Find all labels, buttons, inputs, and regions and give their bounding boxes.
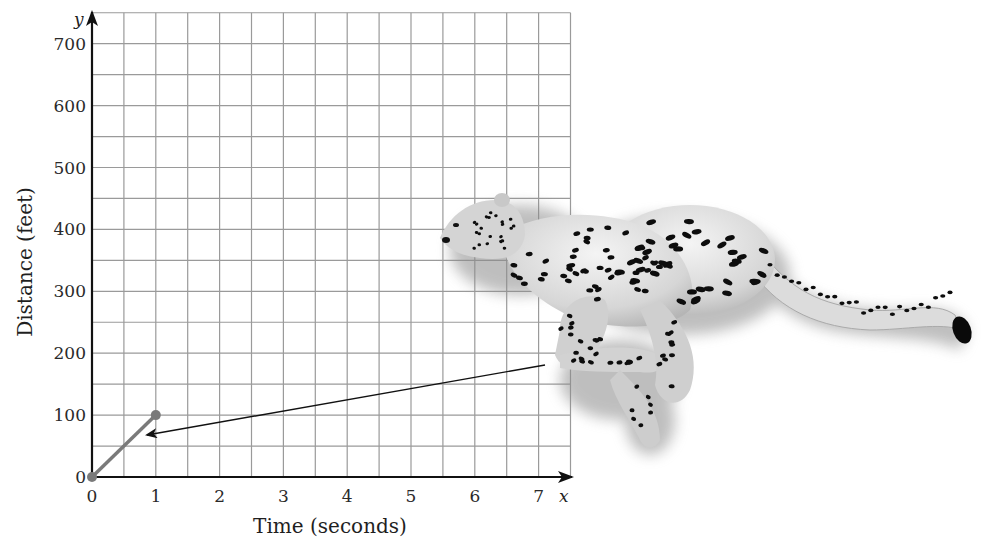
y-axis-variable: y <box>73 9 84 29</box>
x-tick-label: 1 <box>150 486 161 506</box>
x-tick-label: 5 <box>406 486 417 506</box>
annotation-arrow <box>147 365 545 435</box>
y-tick-label: 200 <box>54 343 86 363</box>
x-axis-variable: x <box>559 486 569 506</box>
y-tick-label: 500 <box>54 158 86 178</box>
x-tick-label: 0 <box>87 486 98 506</box>
x-tick-label: 3 <box>278 486 289 506</box>
y-axis-title: Distance (feet) <box>13 187 37 337</box>
y-tick-label: 400 <box>54 219 86 239</box>
y-tick-label: 100 <box>54 405 86 425</box>
y-tick-label: 600 <box>54 96 86 116</box>
y-tick-label: 0 <box>75 467 86 487</box>
distance-time-chart: x y 01234567 0100200300400500600700 Time… <box>0 0 994 557</box>
data-point <box>151 410 161 420</box>
x-axis-title: Time (seconds) <box>253 514 407 538</box>
y-tick-label: 700 <box>54 34 86 54</box>
x-tick-label: 4 <box>342 486 353 506</box>
x-tick-label: 6 <box>469 486 480 506</box>
y-tick-label: 300 <box>54 281 86 301</box>
x-tick-labels: 01234567 <box>87 486 544 506</box>
data-point <box>87 472 97 482</box>
y-tick-labels: 0100200300400500600700 <box>54 34 86 487</box>
x-tick-label: 2 <box>214 486 225 506</box>
x-tick-label: 7 <box>533 486 544 506</box>
